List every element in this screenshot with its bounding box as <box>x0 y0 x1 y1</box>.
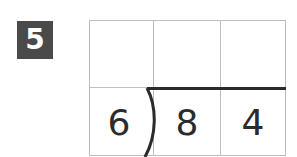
dividend-digit-1: 8 <box>154 88 220 156</box>
quotient-cell-1[interactable] <box>89 20 153 88</box>
dividend-digit-2: 4 <box>221 88 285 156</box>
problem-number-badge: 5 <box>17 21 53 59</box>
quotient-cell-3[interactable] <box>221 20 285 88</box>
long-division-grid: 6 8 4 <box>89 20 286 156</box>
divisor-cell: 6 <box>89 88 149 156</box>
quotient-cell-2[interactable] <box>154 20 220 88</box>
